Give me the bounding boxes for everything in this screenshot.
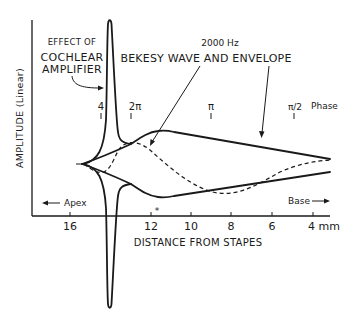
phase-mark-label: 4 <box>98 101 104 112</box>
apex-label: Apex <box>64 198 87 208</box>
x-tick-label: 10 <box>184 220 198 233</box>
arrow-right-icon <box>98 86 104 91</box>
amplifier-arrow <box>72 76 100 88</box>
wave-label: BEKESY WAVE AND ENVELOPE <box>120 52 291 65</box>
amplifier-label-line3: AMPLIFIER <box>42 63 102 76</box>
phase-mark-label: π <box>208 101 214 112</box>
apex-indicator: Apex <box>42 198 87 208</box>
x-tick-label: 16 <box>63 220 77 233</box>
frequency-label: 2000 Hz <box>201 38 239 48</box>
arrow-down-icon <box>259 131 265 138</box>
x-tick-label: 6 <box>269 220 276 233</box>
arrow-right-icon <box>324 199 330 204</box>
phase-label: Phase <box>311 101 338 111</box>
y-axis-label: AMPLITUDE (Linear) <box>14 68 25 168</box>
x-tick-label: 8 <box>228 220 235 233</box>
base-indicator: Base <box>288 196 330 206</box>
amplifier-lower-spike <box>84 164 131 308</box>
x-tick-label: 12 <box>144 220 158 233</box>
phase-mark-label: 2π <box>129 101 141 112</box>
x-axis-label: DISTANCE FROM STAPES <box>134 237 263 248</box>
base-label: Base <box>288 196 310 206</box>
amplifier-label-line1: EFFECT OF <box>48 37 97 47</box>
cochlear-diagram: 16 12 10 8 6 4 mm * DISTANCE FROM STAPES… <box>0 0 353 325</box>
asterisk-marker: * <box>155 206 160 216</box>
arrow-down-icon <box>150 139 155 146</box>
traveling-wave <box>84 143 330 194</box>
arrow-left-icon <box>42 201 48 206</box>
phase-mark-label: π/2 <box>288 102 302 112</box>
envelope-pointer-line <box>262 66 269 133</box>
x-tick-label: 4 mm <box>308 220 340 233</box>
